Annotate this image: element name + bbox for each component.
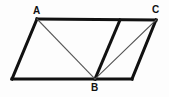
geometry-figure: A C B (0, 0, 169, 97)
vertex-label-a: A (33, 6, 40, 16)
vertex-label-c: C (152, 5, 159, 15)
vertex-label-b: B (91, 83, 98, 93)
geometry-canvas (0, 0, 169, 97)
segment-top-edge-A-to-C (37, 19, 156, 20)
